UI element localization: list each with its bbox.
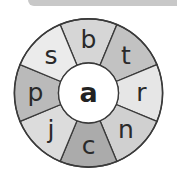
segment-letter: s: [45, 41, 58, 70]
segment-letter: c: [82, 131, 96, 160]
segment-letter: b: [81, 25, 97, 54]
segment-letter: n: [118, 115, 134, 144]
segment-letter: r: [136, 78, 147, 107]
segment-letter: t: [121, 41, 131, 70]
segment-letter: p: [28, 78, 44, 107]
letter-wheel: btrncjpsa: [0, 0, 177, 176]
segment-letter: j: [47, 115, 55, 144]
center-letter: a: [79, 77, 97, 108]
